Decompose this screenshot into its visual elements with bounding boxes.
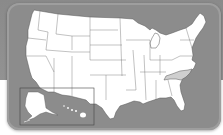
- hawaii: [63, 105, 86, 117]
- contiguous-us: [26, 10, 206, 119]
- alaska: [25, 92, 58, 121]
- us-map: [0, 0, 223, 135]
